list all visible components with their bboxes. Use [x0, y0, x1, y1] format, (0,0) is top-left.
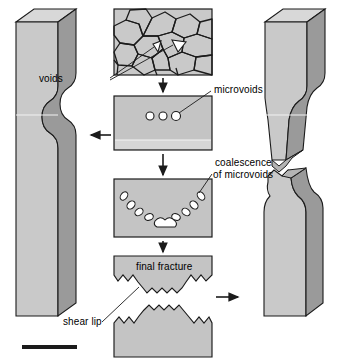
figure-canvas [0, 0, 343, 359]
grain-structure-panel [110, 9, 212, 80]
left-specimen-front-face [16, 22, 58, 316]
left-specimen [16, 9, 76, 316]
ductile-fracture-figure: voids microvoids coalescence of microvoi… [0, 0, 343, 359]
microvoids-panel-band [115, 140, 211, 149]
coalescence-label-line1: coalescence [215, 157, 272, 168]
scale-bar [22, 345, 77, 349]
coalescence-panel [114, 174, 212, 237]
coalescence-central-crack [154, 218, 176, 227]
voids-label: voids [39, 73, 63, 84]
microvoid-1 [146, 112, 154, 120]
shear-lip-leader-line [102, 287, 139, 322]
shear-lip-label: shear lip [63, 316, 102, 327]
microvoids-label: microvoids [214, 84, 263, 95]
fracture-lower-piece [114, 305, 212, 357]
microvoids-panel [114, 91, 212, 150]
right-specimen [264, 9, 325, 316]
final-fracture-label: final fracture [136, 261, 192, 272]
microvoid-2 [159, 112, 167, 120]
coalescence-label-line2: of microvoids [213, 169, 273, 180]
